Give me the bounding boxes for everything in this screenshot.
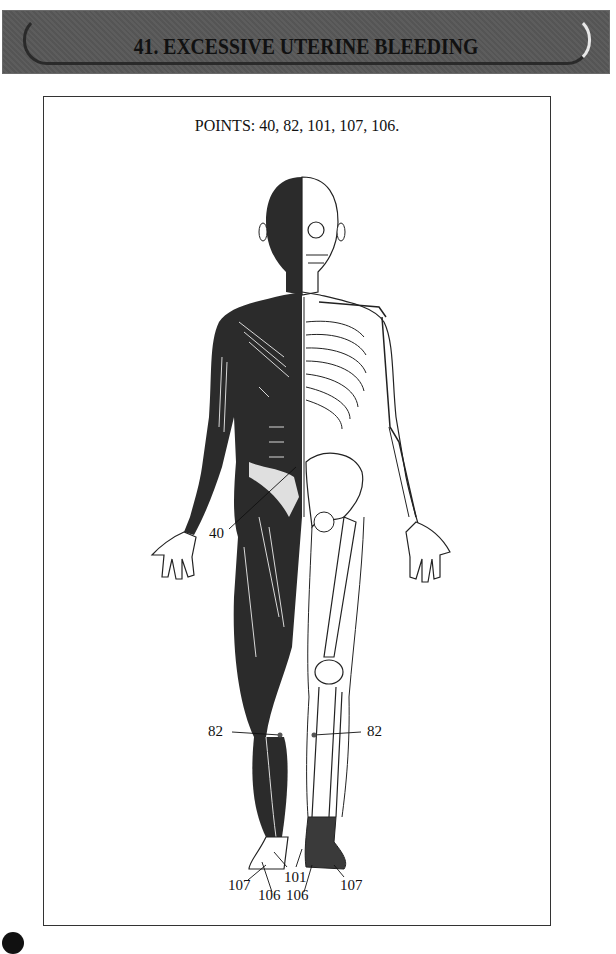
point-label-40: 40 — [209, 525, 224, 542]
point-label-106-right: 106 — [286, 887, 309, 904]
page-tab-marker — [2, 932, 24, 954]
left-foot — [249, 837, 288, 869]
point-label-107-left: 107 — [228, 877, 251, 894]
clavicle — [319, 302, 386, 317]
figure-frame: POINTS: 40, 82, 101, 107, 106. — [43, 96, 551, 926]
right-foot — [305, 817, 346, 869]
torso-muscle-half — [184, 292, 302, 737]
right-arm-bones — [382, 317, 416, 517]
left-hand — [152, 532, 196, 579]
point-label-101: 101 — [284, 869, 307, 886]
point-label-82-right: 82 — [367, 723, 382, 740]
right-hand — [406, 522, 450, 582]
chapter-banner: 41. EXCESSIVE UTERINE BLEEDING — [2, 10, 610, 74]
pelvis — [306, 453, 363, 527]
lower-leg-bones — [312, 687, 342, 817]
point-label-82-left: 82 — [208, 723, 223, 740]
head-skull-half — [302, 177, 338, 295]
left-lower-leg-muscle — [252, 737, 287, 837]
chapter-title: 41. EXCESSIVE UTERINE BLEEDING — [58, 33, 555, 60]
femur — [324, 517, 356, 657]
head-muscle-half — [266, 177, 302, 295]
point-label-106-left: 106 — [258, 887, 281, 904]
patella — [315, 660, 343, 684]
point-label-107-right: 107 — [340, 877, 363, 894]
anatomy-figure — [44, 97, 552, 927]
